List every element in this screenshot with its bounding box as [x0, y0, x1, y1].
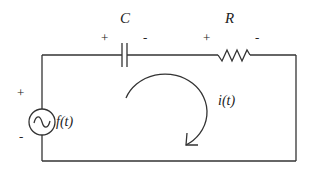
capacitor-label: C	[120, 10, 131, 26]
ac-source-icon	[29, 109, 55, 135]
capacitor	[122, 43, 127, 67]
capacitor-plus: +	[101, 30, 108, 45]
source-label: f(t)	[56, 114, 73, 130]
resistor-label: R	[224, 10, 234, 26]
current-arrow-icon	[126, 74, 207, 145]
resistor-minus: -	[255, 30, 259, 45]
rc-circuit-diagram: C + - R + - + - f(t) i(t)	[0, 0, 310, 172]
source-plus: +	[17, 85, 24, 100]
current-label: i(t)	[218, 93, 235, 109]
source-minus: -	[19, 129, 23, 144]
resistor	[218, 50, 250, 61]
capacitor-minus: -	[143, 30, 147, 45]
resistor-plus: +	[203, 30, 210, 45]
